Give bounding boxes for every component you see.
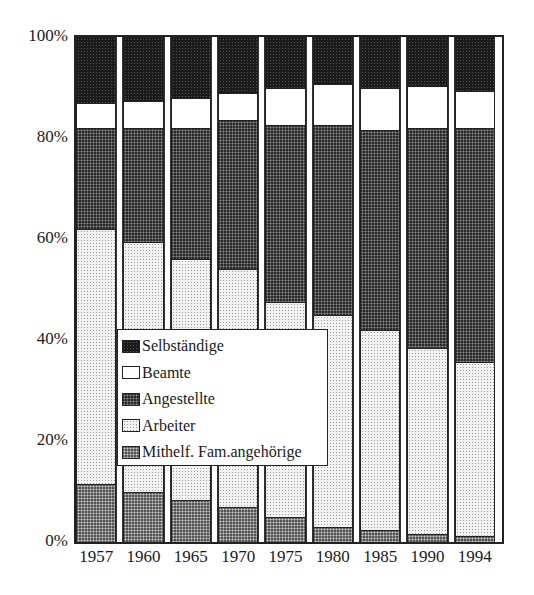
legend-label: Selbständige xyxy=(142,337,224,355)
segment-mith xyxy=(77,484,115,542)
segment-beam xyxy=(314,84,352,125)
stacked-bar-chart: 100% 80% 60% 40% 20% 0% 1957196019651970… xyxy=(0,0,534,595)
segment-arb xyxy=(361,330,399,530)
y-tick-20: 20% xyxy=(4,430,68,450)
y-tick-40: 40% xyxy=(4,329,68,349)
segment-ange xyxy=(361,130,399,329)
segment-selb xyxy=(456,37,494,91)
x-tick-label: 1970 xyxy=(213,547,263,567)
x-tick-label: 1990 xyxy=(403,547,453,567)
legend-swatch-mithelfende xyxy=(122,446,140,459)
segment-ange xyxy=(314,125,352,314)
segment-beam xyxy=(361,88,399,131)
segment-selb xyxy=(361,37,399,88)
segment-mith xyxy=(219,507,257,542)
segment-selb xyxy=(172,37,210,98)
legend-label: Arbeiter xyxy=(142,417,195,435)
bar-1994 xyxy=(455,37,495,542)
x-tick-label: 1994 xyxy=(450,547,500,567)
bar-gap xyxy=(306,37,313,542)
bar-1990 xyxy=(407,37,447,542)
segment-selb xyxy=(77,37,115,103)
segment-arb xyxy=(456,362,494,536)
legend-label: Mithelf. Fam.angehörige xyxy=(142,443,302,461)
legend-item-beamte: Beamte xyxy=(122,360,327,387)
segment-selb xyxy=(266,37,304,88)
x-tick-label: 1985 xyxy=(355,547,405,567)
segment-selb xyxy=(314,37,352,84)
segment-ange xyxy=(172,128,210,259)
bar-gap xyxy=(400,37,407,542)
segment-ange xyxy=(77,128,115,229)
segment-beam xyxy=(219,93,257,121)
segment-ange xyxy=(266,125,304,302)
segment-ange xyxy=(124,128,162,242)
segment-mith xyxy=(266,517,304,542)
bar-1985 xyxy=(360,37,400,542)
x-tick-label: 1975 xyxy=(261,547,311,567)
segment-beam xyxy=(77,103,115,128)
legend-label: Beamte xyxy=(142,364,191,382)
segment-beam xyxy=(456,91,494,128)
legend-item-mithelfende: Mithelf. Fam.angehörige xyxy=(122,439,327,466)
y-tick-0: 0% xyxy=(4,531,68,551)
legend-swatch-beamte xyxy=(122,366,140,379)
segment-selb xyxy=(408,37,446,86)
bar-gap xyxy=(116,37,123,542)
legend-swatch-selbstaendige xyxy=(122,340,140,353)
legend-swatch-angestellte xyxy=(122,393,140,406)
bar-1980 xyxy=(313,37,353,542)
bar-gap xyxy=(353,37,360,542)
legend-item-arbeiter: Arbeiter xyxy=(122,413,327,440)
x-tick-label: 1980 xyxy=(308,547,358,567)
legend-label: Angestellte xyxy=(142,390,215,408)
bar-1957 xyxy=(76,37,116,542)
segment-beam xyxy=(408,86,446,128)
bar-gap xyxy=(448,37,455,542)
bar-1975 xyxy=(265,37,305,542)
bar-gap xyxy=(211,37,218,542)
segment-ange xyxy=(408,128,446,348)
legend-item-angestellte: Angestellte xyxy=(122,386,327,413)
bar-gap xyxy=(164,37,171,542)
y-tick-60: 60% xyxy=(4,228,68,248)
y-tick-100: 100% xyxy=(4,26,68,46)
legend-item-selbstaendige: Selbständige xyxy=(122,333,327,360)
segment-beam xyxy=(124,101,162,128)
segment-mith xyxy=(172,500,210,542)
segment-ange xyxy=(456,128,494,362)
x-tick-label: 1957 xyxy=(71,547,121,567)
segment-mith xyxy=(361,530,399,542)
x-tick-label: 1960 xyxy=(119,547,169,567)
segment-selb xyxy=(219,37,257,93)
bar-1960 xyxy=(123,37,163,542)
segment-arb xyxy=(408,348,446,534)
segment-mith xyxy=(314,527,352,542)
bar-1970 xyxy=(218,37,258,542)
bar-1965 xyxy=(171,37,211,542)
segment-beam xyxy=(172,98,210,128)
segment-mith xyxy=(408,534,446,542)
bar-gap xyxy=(258,37,265,542)
segment-selb xyxy=(124,37,162,101)
segment-mith xyxy=(124,492,162,543)
segment-beam xyxy=(266,88,304,126)
segment-mith xyxy=(456,536,494,542)
segment-arb xyxy=(77,229,115,484)
legend-swatch-arbeiter xyxy=(122,419,140,432)
x-tick-label: 1965 xyxy=(166,547,216,567)
segment-ange xyxy=(219,120,257,269)
legend: Selbständige Beamte Angestellte Arbeiter… xyxy=(117,329,328,466)
y-tick-80: 80% xyxy=(4,127,68,147)
